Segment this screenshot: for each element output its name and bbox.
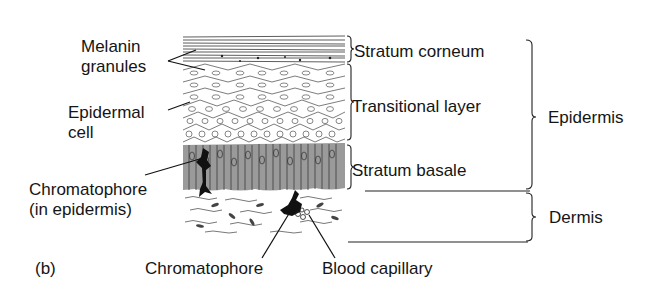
label-stratum-basale: Stratum basale (352, 161, 466, 181)
label-chromatophore-epidermis: Chromatophore (in epidermis) (29, 180, 147, 220)
chromatophore-dermis-shape (280, 190, 302, 216)
label-granules-line2: granules (81, 57, 146, 77)
label-dermis: Dermis (549, 208, 603, 228)
region-braces (526, 40, 536, 241)
label-blood-capillary: Blood capillary (322, 259, 433, 279)
label-epidermal-line1: Epidermal (68, 103, 145, 123)
label-melanin-granules: Melanin granules (81, 37, 146, 77)
stratum-basale-illustration (183, 143, 345, 197)
label-cell-line2: cell (68, 123, 145, 143)
label-in-epidermis-line2: (in epidermis) (29, 200, 147, 220)
label-epidermis: Epidermis (548, 108, 624, 128)
label-chromatophore-dermis: Chromatophore (145, 259, 263, 279)
label-melanin-line1: Melanin (81, 37, 146, 57)
panel-label: (b) (35, 259, 56, 279)
label-chromatophore-line1: Chromatophore (29, 180, 147, 200)
dermis-illustration (185, 190, 342, 233)
label-epidermal-cell: Epidermal cell (68, 103, 145, 143)
label-transitional-layer: Transitional layer (352, 97, 481, 117)
stratum-corneum-illustration (183, 36, 345, 62)
transitional-layer-illustration (183, 64, 345, 142)
label-stratum-corneum: Stratum corneum (354, 42, 484, 62)
